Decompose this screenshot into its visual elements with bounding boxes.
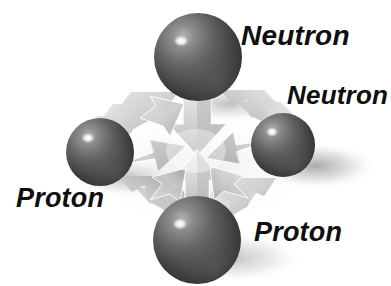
nucleon-top <box>154 13 242 101</box>
label-proton-bottom: Proton <box>254 219 342 246</box>
nucleon-right <box>251 113 315 177</box>
nucleus-diagram: Neutron Neutron Proton Proton <box>0 0 391 286</box>
nucleon-left <box>66 118 134 186</box>
label-neutron-right: Neutron <box>287 82 388 108</box>
label-neutron-top: Neutron <box>241 22 350 50</box>
label-proton-left: Proton <box>16 185 104 212</box>
nucleon-bottom <box>153 196 241 284</box>
